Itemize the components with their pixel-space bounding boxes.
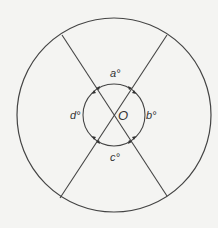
angle-c-label: c° bbox=[110, 151, 121, 163]
angle-d-label: d° bbox=[70, 109, 81, 121]
circle-angle-diagram: a° b° c° d° O bbox=[0, 0, 218, 228]
center-label: O bbox=[118, 108, 128, 123]
angle-a-label: a° bbox=[110, 67, 121, 79]
angle-b-label: b° bbox=[146, 109, 157, 121]
